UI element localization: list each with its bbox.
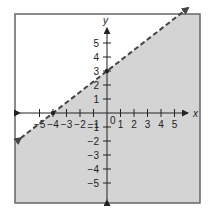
y-tick-label: 5: [93, 38, 99, 49]
y-tick-label: 2: [93, 80, 99, 91]
inequality-graph: −5−4−3−2−112345−5−4−3−2−1123450xy: [0, 0, 211, 214]
line-point: [105, 69, 109, 73]
y-tick-label: −2: [88, 136, 100, 147]
x-tick-label: −4: [47, 119, 59, 130]
graph-container: −5−4−3−2−112345−5−4−3−2−1123450xy: [0, 0, 211, 214]
y-tick-label: 1: [93, 94, 99, 105]
y-tick-label: −4: [88, 164, 100, 175]
x-tick-label: 4: [158, 119, 164, 130]
origin-label: 0: [110, 115, 116, 126]
y-tick-label: 3: [93, 66, 99, 77]
y-tick-label: −5: [88, 178, 100, 189]
y-tick-label: −3: [88, 150, 100, 161]
x-tick-label: 2: [131, 119, 137, 130]
x-tick-label: −5: [34, 119, 46, 130]
x-tick-label: 1: [118, 119, 124, 130]
x-tick-label: 3: [145, 119, 151, 130]
x-tick-label: −3: [61, 119, 73, 130]
y-tick-label: 4: [93, 52, 99, 63]
x-axis-label: x: [192, 108, 199, 119]
x-tick-label: 5: [172, 119, 178, 130]
y-axis-label: y: [102, 15, 109, 26]
line-point: [51, 111, 55, 115]
y-tick-label: −1: [88, 122, 100, 133]
x-tick-label: −2: [74, 119, 86, 130]
